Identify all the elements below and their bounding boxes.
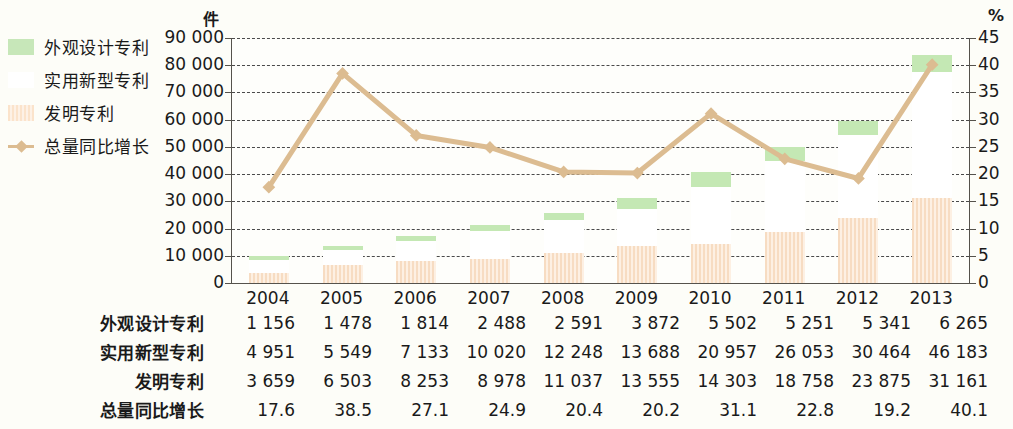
table-cell: 46 183 (911, 342, 988, 362)
table-cell: 2 591 (526, 313, 603, 333)
diamond-marker-icon (557, 166, 570, 179)
right-axis-tick-label: 45 (978, 27, 1000, 47)
x-axis-tick-label: 2009 (596, 288, 676, 308)
chart-plot-area: 90 00080 00070 00060 00050 00040 00030 0… (231, 38, 970, 284)
left-axis-tick-label: 70 000 (128, 81, 224, 101)
table-cell: 6 503 (295, 371, 372, 391)
right-axis-tick-label: 20 (978, 163, 1000, 183)
table-cell: 20 957 (680, 342, 757, 362)
table-row-label: 发明专利 (0, 368, 218, 393)
right-axis-tick-label: 25 (978, 136, 1000, 156)
right-axis-tick-label: 0 (978, 272, 989, 292)
left-axis-tick-label: 60 000 (128, 109, 224, 129)
table-cell: 40.1 (911, 400, 988, 420)
table-cell: 5 549 (295, 342, 372, 362)
table-cell: 1 814 (372, 313, 449, 333)
table-cell: 30 464 (834, 342, 911, 362)
table-cell: 20.2 (603, 400, 680, 420)
table-cell: 17.6 (218, 400, 295, 420)
right-axis-tick-label: 30 (978, 109, 1000, 129)
right-axis-tick-label: 35 (978, 81, 1000, 101)
table-cell: 23 875 (834, 371, 911, 391)
diamond-marker-icon (484, 141, 497, 154)
table-cell: 10 020 (449, 342, 526, 362)
table-cell: 19.2 (834, 400, 911, 420)
table-row-label: 实用新型专利 (0, 339, 218, 364)
table-cell: 12 248 (526, 342, 603, 362)
left-axis-tick-label: 50 000 (128, 136, 224, 156)
table-cell: 4 951 (218, 342, 295, 362)
line-diamond-marker-icon (8, 138, 34, 154)
table-row-label: 总量同比增长 (0, 397, 218, 422)
table-cell: 24.9 (449, 400, 526, 420)
table-cell: 1 156 (218, 313, 295, 333)
left-axis-tick-label: 90 000 (128, 27, 224, 47)
table-cell: 5 251 (757, 313, 834, 333)
table-cell: 31 161 (911, 371, 988, 391)
table-cell: 8 253 (372, 371, 449, 391)
table-cell: 5 341 (834, 313, 911, 333)
peach-striped-square-swatch-icon (8, 105, 34, 121)
table-cell: 31.1 (680, 400, 757, 420)
table-cell: 22.8 (757, 400, 834, 420)
table-cell: 8 978 (449, 371, 526, 391)
x-axis-tick-label: 2008 (523, 288, 603, 308)
x-axis-tick-label: 2010 (670, 288, 750, 308)
left-axis-tick-label: 0 (128, 272, 224, 292)
table-cell: 7 133 (372, 342, 449, 362)
table-cell: 5 502 (680, 313, 757, 333)
table-cell: 6 265 (911, 313, 988, 333)
growth-line-path (269, 65, 932, 188)
green-square-swatch-icon (8, 39, 34, 55)
data-table: 外观设计专利1 1561 4781 8142 4882 5913 8725 50… (0, 308, 1013, 424)
x-axis-tick-label: 2013 (891, 288, 971, 308)
left-axis-tick-label: 80 000 (128, 54, 224, 74)
table-row: 总量同比增长17.638.527.124.920.420.231.122.819… (0, 395, 1013, 424)
table-cell: 11 037 (526, 371, 603, 391)
left-axis-tick-label: 20 000 (128, 218, 224, 238)
right-axis-tick-label: 40 (978, 54, 1000, 74)
left-axis-tick-label: 40 000 (128, 163, 224, 183)
right-axis-tick-label: 15 (978, 190, 1000, 210)
x-axis-tick-label: 2006 (375, 288, 455, 308)
table-cell: 27.1 (372, 400, 449, 420)
x-axis-tick-label: 2004 (228, 288, 308, 308)
white-square-swatch-icon (8, 72, 34, 88)
table-row: 发明专利3 6596 5038 2538 97811 03713 55514 3… (0, 366, 1013, 395)
x-axis-tick-label: 2007 (449, 288, 529, 308)
x-axis-tick-label: 2011 (744, 288, 824, 308)
table-cell: 3 872 (603, 313, 680, 333)
x-axis-tick-label: 2012 (817, 288, 897, 308)
right-axis-unit: % (988, 6, 1004, 25)
table-row: 实用新型专利4 9515 5497 13310 02012 24813 6882… (0, 337, 1013, 366)
right-axis-tick-label: 5 (978, 245, 989, 265)
table-row: 外观设计专利1 1561 4781 8142 4882 5913 8725 50… (0, 308, 1013, 337)
right-axis-tick-label: 10 (978, 218, 1000, 238)
legend-label: 发明专利 (44, 100, 114, 125)
table-cell: 13 555 (603, 371, 680, 391)
table-cell: 38.5 (295, 400, 372, 420)
table-cell: 18 758 (757, 371, 834, 391)
table-cell: 26 053 (757, 342, 834, 362)
table-cell: 1 478 (295, 313, 372, 333)
table-cell: 14 303 (680, 371, 757, 391)
table-cell: 20.4 (526, 400, 603, 420)
table-row-label: 外观设计专利 (0, 310, 218, 335)
x-axis-tick-label: 2005 (302, 288, 382, 308)
table-cell: 13 688 (603, 342, 680, 362)
table-cell: 3 659 (218, 371, 295, 391)
table-cell: 2 488 (449, 313, 526, 333)
left-axis-tick-label: 30 000 (128, 190, 224, 210)
growth-line-series (232, 38, 969, 283)
left-axis-tick-label: 10 000 (128, 245, 224, 265)
